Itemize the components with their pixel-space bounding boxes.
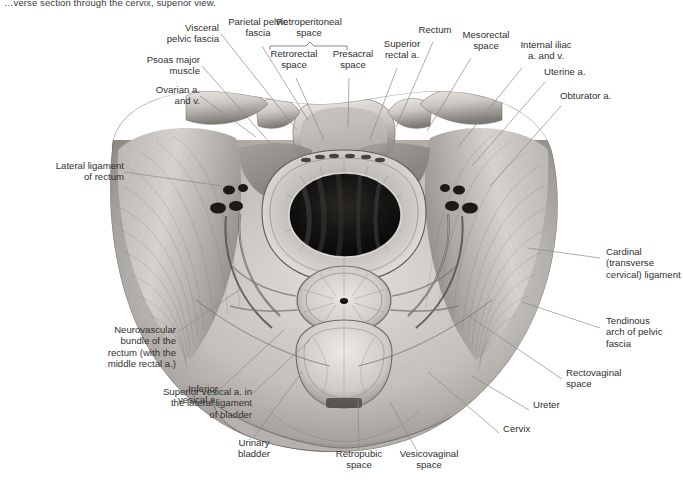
label-lateral-ligament-of-rectum: Lateral ligament of rectum <box>14 160 124 183</box>
label-neurovascular-bundle-of-rectum: Neurovascular bundle of the rectum (with… <box>58 324 176 370</box>
label-retroperitoneal-space: Retroperitoneal space <box>258 16 360 39</box>
label-ovarian-vessels: Ovarian a. and v. <box>108 84 200 107</box>
label-visceral-pelvic-fascia: Visceral pelvic fascia <box>133 22 219 45</box>
label-urinary-bladder: Urinary bladder <box>224 437 284 460</box>
label-inferior-vesical-artery: Inferior vesical a. <box>128 383 218 406</box>
label-psoas-major-muscle: Psoas major muscle <box>112 54 200 77</box>
label-internal-iliac-vessels: Internal iliac a. and v. <box>506 39 586 62</box>
label-ureter: Ureter <box>533 399 585 410</box>
label-uterine-artery: Uterine a. <box>544 66 618 77</box>
label-superior-rectal-artery: Superior rectal a. <box>369 38 435 61</box>
label-tendinous-arch-of-pelvic-fascia: Tendinous arch of pelvic fascia <box>606 315 682 349</box>
label-cardinal-ligament: Cardinal (transverse cervical) ligament <box>606 246 682 280</box>
label-cervix: Cervix <box>503 423 555 434</box>
label-obturator-artery: Obturator a. <box>560 90 644 101</box>
label-rectovaginal-space: Rectovaginal space <box>566 367 652 390</box>
anatomy-figure: …verse section through the cervix, super… <box>0 0 683 498</box>
label-retropubic-space: Retropubic space <box>320 448 398 471</box>
